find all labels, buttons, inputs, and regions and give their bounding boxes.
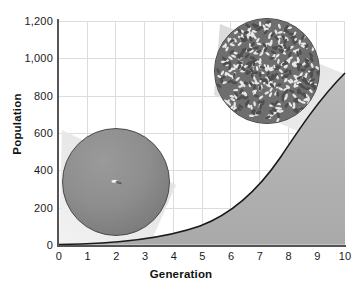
crowded-flies-texture — [215, 19, 320, 124]
y-axis-title: Population — [11, 79, 23, 169]
y-tick-label: 200 — [5, 202, 53, 214]
x-tick-label: 4 — [161, 250, 187, 262]
x-tick-label: 0 — [46, 250, 72, 262]
y-axis-line — [57, 19, 59, 247]
y-tick-label: 1,000 — [5, 52, 53, 64]
inset-crowded-flies — [214, 18, 320, 124]
x-axis-line — [57, 245, 346, 247]
y-axis-ticks: 1,200 1,000 800 600 400 200 0 — [0, 0, 53, 290]
x-tick-label: 3 — [132, 250, 158, 262]
x-axis-title: Generation — [0, 268, 362, 280]
x-tick-label: 8 — [276, 250, 302, 262]
gridline-horizontal — [58, 21, 345, 22]
x-tick-label: 5 — [190, 250, 216, 262]
x-tick-label: 9 — [304, 250, 330, 262]
x-tick-label: 1 — [75, 250, 101, 262]
x-tick-label: 7 — [247, 250, 273, 262]
inset-single-fly — [62, 128, 170, 236]
fly-icon — [110, 179, 123, 185]
x-tick-label: 2 — [103, 250, 129, 262]
chart-figure: 1,200 1,000 800 600 400 200 0 0 1 2 3 4 … — [0, 0, 362, 290]
x-tick-label: 6 — [218, 250, 244, 262]
x-tick-label: 10 — [332, 250, 358, 262]
y-tick-label: 1,200 — [5, 15, 53, 27]
